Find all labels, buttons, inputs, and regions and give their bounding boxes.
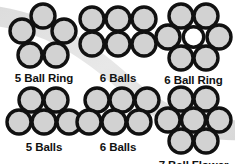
ball: [169, 46, 193, 70]
diagram-label-6-ball-ring: 6 Ball Ring: [164, 75, 222, 87]
diagram-6-ball-ring: 6 Ball Ring: [152, 2, 235, 87]
5-balls-pyramid-art: [5, 86, 83, 138]
diagram-5-balls-pyramid: 5 Balls: [4, 86, 84, 154]
7-ball-flower-art: [155, 86, 233, 156]
ball: [127, 110, 151, 134]
ball: [10, 19, 34, 43]
ball: [52, 19, 76, 43]
ball: [106, 32, 130, 56]
ball: [32, 110, 56, 134]
ball: [77, 110, 101, 134]
6-balls-staggered-art: [75, 86, 161, 138]
diagram-7-ball-flower: 7 Ball Flower: [152, 86, 235, 164]
diagram-6-balls-staggered: 6 Balls: [80, 86, 156, 154]
5-ball-ring-art: [9, 2, 79, 70]
ball: [194, 46, 218, 70]
ball: [31, 4, 55, 28]
ball: [80, 7, 104, 31]
6-ball-ring-art: [155, 2, 233, 72]
ball: [7, 110, 31, 134]
diagram-label-7-ball-flower: 7 Ball Flower: [159, 160, 229, 164]
ball: [18, 43, 42, 67]
diagram-label-5-ball-ring: 5 Ball Ring: [15, 73, 73, 85]
hollow-center: [183, 27, 203, 47]
diagram-6-balls-grid: 6 Balls: [80, 2, 156, 85]
ball: [102, 110, 126, 134]
diagram-5-ball-ring: 5 Ball Ring: [4, 2, 84, 85]
ball: [106, 7, 130, 31]
center-ball: [181, 108, 205, 132]
diagram-label-5-balls-pyramid: 5 Balls: [26, 142, 62, 154]
ball: [44, 43, 68, 67]
ball: [19, 88, 43, 112]
ball-arrangement-figure: 5 Ball Ring 6 Balls: [0, 0, 235, 164]
6-balls-grid-art: [78, 2, 158, 70]
ball: [80, 32, 104, 56]
ball: [44, 88, 68, 112]
diagram-label-6-balls-grid: 6 Balls: [100, 73, 136, 85]
diagram-label-6-balls-staggered: 6 Balls: [100, 142, 136, 154]
